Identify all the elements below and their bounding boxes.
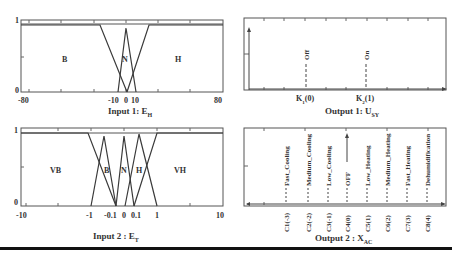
x-tick: C2(-2) [305,212,313,232]
x-tick: C6(2) [384,215,392,232]
output2-singleton-plot: Fast_Cooling Medium_Cooling Low_Cooling … [230,122,461,247]
output2-panel: Fast_Cooling Medium_Cooling Low_Cooling … [230,122,461,247]
x-tick: C5(1) [364,215,372,232]
y-tick-0: 0 [14,198,18,207]
y-tick-1: 1 [15,16,19,25]
set-label-vh: VH [174,166,186,175]
x-tick: C8(4) [424,215,432,232]
y-tick-0: 0 [15,86,19,95]
output1-singleton-plot: Off On [230,0,461,122]
bottom-rule [0,247,452,250]
set-label-n: N [121,166,127,175]
x-tick: 80 [214,96,222,105]
x-tick: 0 [122,211,126,220]
output1-title: Output 1: USY [325,106,379,118]
singleton-label-off: Off [303,49,311,60]
y-tick-1: 1 [14,126,18,135]
singleton-label: Medium_Cooling [305,133,313,186]
set-label-h: H [136,166,142,175]
x-tick: C7(3) [404,215,412,232]
x-tick: -10 [108,96,119,105]
x-tick: 10 [216,211,224,220]
x-tick: -1 [86,211,93,220]
input1-title: Input 1: EH [108,106,152,118]
input2-panel: 1 0 -10 -1 -0.1 0 0.1 1 10 VB B N H VH I… [0,122,230,247]
input2-title: Input 2 : ET [93,231,139,243]
x-tick: C1(-3) [283,212,291,232]
x-tick: -10 [16,211,27,220]
output1-panel: Off On K1(0) K2(1) Output 1: USY [230,0,461,122]
output2-title: Output 2 : XAC [315,233,372,245]
singleton-label: Fast_Cooling [283,146,291,186]
x-tick: -80 [18,96,29,105]
x-tick: 10 [131,96,139,105]
x-tick: C3(-1) [325,212,333,232]
x-tick: -0.1 [104,211,117,220]
singleton-label: OFF [344,172,352,186]
x-tick: 0 [124,96,128,105]
singleton-label: Medium_Heating [384,133,392,186]
input2-membership-plot [0,122,230,247]
x-tick: 0.1 [131,211,141,220]
input1-panel: 1 0 -80 -10 0 10 80 B N H Input 1: EH [0,0,230,122]
x-tick: C4(0) [344,215,352,232]
set-label-n: N [122,55,128,64]
set-label-b: B [104,166,109,175]
set-label-vb: VB [50,166,61,175]
set-label-h: H [175,55,181,64]
x-tick-k2: K2(1) [356,94,374,105]
singleton-label: Low_Heating [364,145,372,186]
set-label-b: B [62,55,67,64]
singleton-label: Fast_Heating [404,145,412,186]
x-tick-k1: K1(0) [296,94,314,105]
singleton-label-on: On [363,51,371,60]
x-tick: 1 [155,211,159,220]
singleton-label: Low_Cooling [325,145,333,186]
singleton-label: Dehumidification [424,134,432,186]
